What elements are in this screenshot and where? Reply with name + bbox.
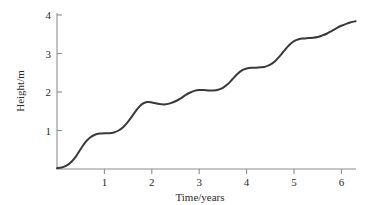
x-tick-label-1: 1 (102, 176, 108, 188)
y-tick-label-3: 3 (46, 48, 52, 60)
x-tick-label-6: 6 (339, 176, 345, 188)
x-tick-label-4: 4 (244, 176, 250, 188)
x-tick-label-3: 3 (196, 176, 202, 188)
x-axis-ticks: 1 2 3 4 5 6 (102, 169, 345, 188)
y-axis-ticks: 1 2 3 4 (46, 9, 63, 137)
chart-figure: 1 2 3 4 1 2 3 4 5 6 Time/years Height/m (0, 0, 374, 205)
y-tick-label-4: 4 (46, 9, 52, 21)
x-axis-title: Time/years (175, 191, 224, 203)
y-tick-label-1: 1 (46, 125, 52, 137)
height-curve (57, 21, 356, 168)
x-tick-label-2: 2 (149, 176, 155, 188)
x-tick-label-5: 5 (291, 176, 297, 188)
height-vs-time-line-chart: 1 2 3 4 1 2 3 4 5 6 Time/years Height/m (0, 0, 374, 205)
y-tick-label-2: 2 (46, 86, 52, 98)
y-axis-title: Height/m (14, 70, 26, 112)
